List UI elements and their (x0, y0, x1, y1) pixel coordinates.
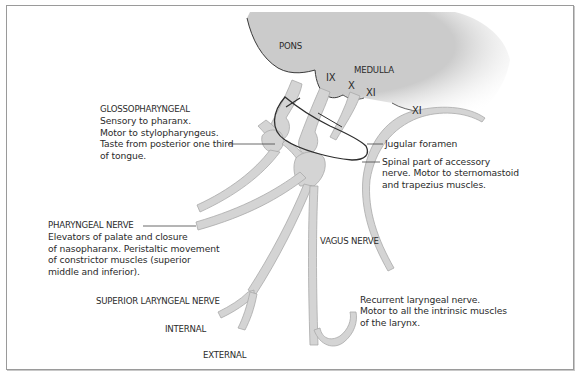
recurrent-laryngeal-line: of the larynx. (360, 317, 507, 328)
glossopharyngeal-line: of tongue. (100, 150, 234, 161)
pharyngeal-nerve-line: of nasopharanx. Peristaltic movement (48, 243, 219, 254)
recurrent-laryngeal-description: Recurrent laryngeal nerve. Motor to all … (360, 294, 507, 328)
internal-branch-label: INTERNAL (165, 324, 206, 335)
nerve-xi-spinal-label: XI (412, 105, 422, 116)
external-branch-label: EXTERNAL (203, 350, 246, 361)
nerve-xi-label: XI (366, 87, 376, 98)
pharyngeal-nerve-line: of constrictor muscles (superior (48, 254, 219, 265)
nerve-x-label: X (348, 80, 355, 91)
jugular-foramen-label: Jugular foramen (385, 138, 457, 149)
vagus-nerve-label: VAGUS NERVE (320, 236, 379, 247)
superior-laryngeal-nerve-label: SUPERIOR LARYNGEAL NERVE (96, 296, 220, 307)
recurrent-laryngeal-line: Recurrent laryngeal nerve. (360, 294, 507, 305)
pharyngeal-nerve-description: PHARYNGEAL NERVE Elevators of palate and… (48, 220, 219, 277)
pons-label: PONS (279, 41, 302, 52)
medulla-label: MEDULLA (354, 65, 394, 76)
glossopharyngeal-line: Sensory to pharanx. (100, 115, 234, 126)
pharyngeal-nerve-title: PHARYNGEAL NERVE (48, 220, 219, 231)
glossopharyngeal-line: Motor to stylopharyngeus. (100, 127, 234, 138)
pharyngeal-nerve-line: Elevators of palate and closure (48, 231, 219, 242)
spinal-accessory-line: Spinal part of accessory (382, 156, 519, 167)
spinal-accessory-description: Spinal part of accessory nerve. Motor to… (382, 156, 519, 190)
pharyngeal-nerve-line: middle and inferior). (48, 266, 219, 277)
nerve-ix-label: IX (326, 72, 336, 83)
spinal-accessory-line: nerve. Motor to sternomastoid (382, 167, 519, 178)
glossopharyngeal-title: GLOSSOPHARYNGEAL (100, 104, 234, 115)
recurrent-laryngeal-line: Motor to all the intrinsic muscles (360, 305, 507, 316)
glossopharyngeal-description: GLOSSOPHARYNGEAL Sensory to pharanx. Mot… (100, 104, 234, 161)
glossopharyngeal-line: Taste from posterior one third (100, 138, 234, 149)
spinal-accessory-line: and trapezius muscles. (382, 179, 519, 190)
